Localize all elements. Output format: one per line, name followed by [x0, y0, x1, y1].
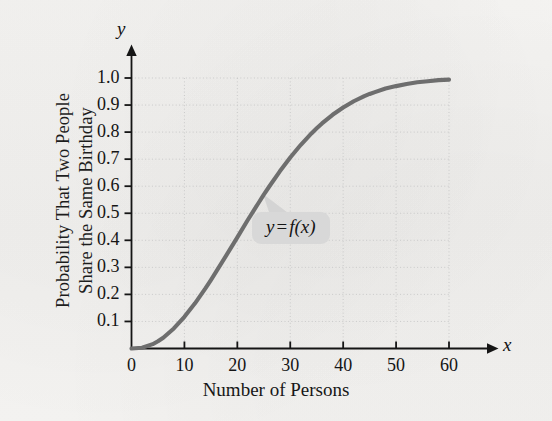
x-tick-label: 60 — [429, 355, 469, 376]
chart-figure: 0.10.20.30.40.50.60.70.80.91.0 010203040… — [0, 0, 552, 421]
x-axis-arrowhead — [487, 343, 499, 353]
x-tick-label: 40 — [323, 355, 363, 376]
x-tick-label: 10 — [164, 355, 204, 376]
x-tick-label: 0 — [112, 355, 152, 376]
curve-callout: y=f(x) — [252, 212, 330, 244]
x-tick-label: 50 — [376, 355, 416, 376]
y-axis-title-line-2: Share the Same Birthday — [76, 51, 97, 351]
y-axis-title-line-1: Probability That Two People — [53, 51, 74, 351]
callout-fx-text: f(x) — [289, 216, 315, 237]
x-axis-name: x — [503, 334, 511, 356]
y-axis-arrowhead — [126, 45, 136, 57]
x-tick-label: 30 — [270, 355, 310, 376]
x-tick-label: 20 — [217, 355, 257, 376]
x-axis-title: Number of Persons — [0, 379, 552, 401]
y-axis-name: y — [117, 18, 125, 40]
axes — [126, 45, 498, 354]
callout-equals-sign: = — [274, 216, 289, 237]
